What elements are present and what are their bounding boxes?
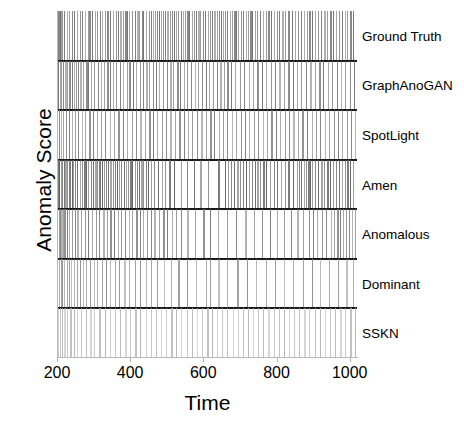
spike [161,11,162,61]
spike [167,61,168,111]
raster-panel [57,61,357,111]
spike [114,110,115,160]
spike [187,308,188,358]
spike [257,11,258,61]
spike [153,110,154,160]
spike [208,11,209,61]
spike [271,61,272,111]
spike [154,209,156,259]
spike [113,160,114,210]
spike [350,11,352,61]
spike [176,308,177,358]
spike [67,61,68,111]
spike [238,308,239,358]
spike [184,61,185,111]
spike [149,110,151,160]
spike [135,160,136,210]
spike [179,110,181,160]
spike [309,11,311,61]
spike [91,160,92,210]
spike [303,209,304,259]
spike [266,160,267,210]
spike [115,259,116,309]
spike [146,259,147,309]
spike [258,110,259,160]
spike [75,160,76,210]
spike [254,209,255,259]
spike [353,259,354,309]
spike [145,110,146,160]
spike [148,160,149,210]
spike [350,61,352,111]
spike [200,160,202,210]
spike [227,259,228,309]
spike [146,61,148,111]
spike [212,308,213,358]
spike [247,259,248,309]
spike [312,160,313,210]
spike [336,11,337,61]
spike [94,61,95,111]
spike [339,160,340,210]
spike [188,110,189,160]
spike [157,110,158,160]
spike [210,11,211,61]
spike [187,259,188,309]
spike [284,209,285,259]
spike [78,61,79,111]
spike [133,61,134,111]
spike [337,61,338,111]
spike [330,11,332,61]
spike [75,110,76,160]
spike [157,259,158,309]
spike [263,160,265,210]
spike [136,61,137,111]
row-label-spotlight: SpotLight [362,129,419,143]
spike [167,209,168,259]
spike [76,61,77,111]
spike [334,209,335,259]
spike [89,110,91,160]
spike [165,160,166,210]
spike [289,110,290,160]
spike [217,11,218,61]
spike [266,11,267,61]
spike [86,160,87,210]
spike [355,308,356,358]
spike [176,209,177,259]
spike [125,308,127,358]
spike [171,308,173,358]
spike [110,259,111,309]
spike [279,61,281,111]
spike [285,160,286,210]
spike [353,160,354,210]
spike [237,259,239,309]
spike [166,308,167,358]
spike [175,110,176,160]
row-label-dominant: Dominant [362,278,420,292]
spike [146,160,148,210]
spike [350,160,351,210]
spike [327,160,329,210]
spike [195,209,196,259]
spike [146,308,147,358]
spike [304,308,306,358]
spike [140,209,141,259]
spike [69,259,70,309]
spike [281,160,283,210]
spike [159,209,160,259]
spike [101,110,102,160]
spike [297,61,298,111]
spike [140,61,141,111]
x-axis-label: Time [57,391,358,415]
spike [151,308,152,358]
spike [132,110,133,160]
spike [123,110,124,160]
spike [66,110,68,160]
spike [103,209,105,259]
spike [97,110,98,160]
spike [220,61,222,111]
spike [329,110,330,160]
spike [91,61,92,111]
spike [237,160,239,210]
